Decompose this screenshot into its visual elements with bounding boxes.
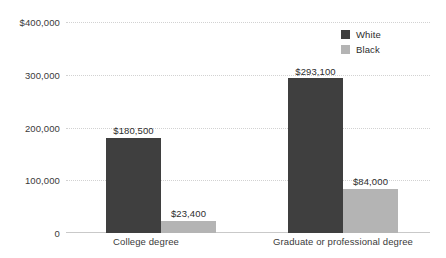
gridline-400000 — [66, 22, 430, 23]
gridline-300000 — [66, 75, 430, 76]
x-category-label-graduate-degree: Graduate or professional degree — [248, 236, 438, 247]
bar-value-label: $84,000 — [333, 176, 408, 187]
y-tick-label: 100,000 — [25, 175, 60, 186]
bar-graduate-degree-black[interactable] — [343, 189, 398, 233]
legend-item-white[interactable]: White — [341, 28, 381, 41]
legend-swatch-icon — [341, 45, 350, 54]
bar-value-label: $180,500 — [96, 125, 171, 136]
bar-value-label: $23,400 — [151, 208, 226, 219]
bar-value-label: $293,100 — [278, 66, 353, 77]
x-category-label-college-degree: College degree — [76, 236, 216, 247]
legend-item-black[interactable]: Black — [341, 43, 381, 56]
bar-graduate-degree-white[interactable] — [288, 78, 343, 233]
y-tick-label: 0 — [55, 228, 60, 239]
legend: White Black — [341, 28, 381, 58]
y-tick-label: 300,000 — [25, 69, 60, 80]
bar-chart: $400,000 300,000 200,000 100,000 0 $180,… — [0, 0, 446, 258]
legend-item-label: Black — [356, 44, 380, 55]
legend-swatch-icon — [341, 30, 350, 39]
y-tick-label: $400,000 — [20, 17, 60, 28]
bar-college-degree-black[interactable] — [161, 221, 216, 233]
legend-item-label: White — [356, 29, 381, 40]
y-tick-label: 200,000 — [25, 122, 60, 133]
